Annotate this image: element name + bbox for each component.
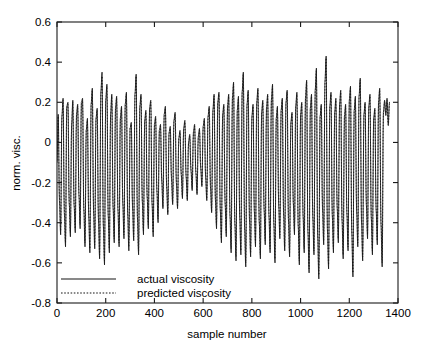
x-tick-label: 1400: [385, 307, 411, 319]
x-tick-label: 600: [194, 307, 213, 319]
y-tick-label: 0.2: [35, 96, 51, 108]
y-tick-label: 0.4: [35, 56, 52, 68]
x-tick-label: 800: [242, 307, 261, 319]
y-tick-label: -0.8: [31, 297, 51, 309]
y-tick-label: 0.6: [35, 16, 51, 28]
x-tick-label: 400: [145, 307, 164, 319]
y-tick-label: -0.6: [31, 257, 51, 269]
x-tick-label: 200: [96, 307, 115, 319]
x-tick-label: 0: [54, 307, 60, 319]
y-tick-label: -0.2: [31, 177, 51, 189]
x-tick-label: 1000: [288, 307, 314, 319]
legend-label-predicted-viscosity: predicted viscosity: [137, 287, 231, 299]
chart-figure: 0200400600800100012001400 -0.8-0.6-0.4-0…: [0, 0, 430, 344]
y-tick-label: -0.4: [31, 217, 51, 229]
y-axis-title: norm. visc.: [10, 135, 22, 191]
y-tick-label: 0: [45, 136, 51, 148]
x-tick-label: 1200: [336, 307, 362, 319]
x-axis-title: sample number: [187, 328, 266, 340]
viscosity-line-chart: 0200400600800100012001400 -0.8-0.6-0.4-0…: [0, 0, 430, 344]
legend-label-actual-viscosity: actual viscosity: [137, 273, 215, 285]
